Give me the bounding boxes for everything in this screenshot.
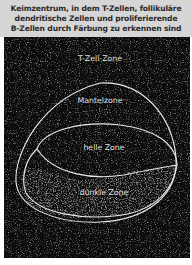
caption-line-1: Keimzentrum, in dem T-Zellen, follikulär… <box>11 4 182 14</box>
caption-line-3: B-Zellen durch Färbung zu erkennen sind <box>11 24 182 34</box>
t-cell-zone-label: T-Zell-Zone <box>78 54 122 63</box>
caption-line-2: dendritische Zellen und proliferierende <box>11 14 182 24</box>
mantle-zone-label: Mantelzone <box>77 96 122 105</box>
caption-text: Keimzentrum, in dem T-Zellen, follikulär… <box>11 4 182 34</box>
light-zone-label: helle Zone <box>83 143 124 152</box>
dark-zone-label: dunkle Zone <box>80 188 129 197</box>
micrograph: T-Zell-Zone Mantelzone helle Zone dunkle… <box>4 37 190 258</box>
figure-caption: Keimzentrum, in dem T-Zellen, follikulär… <box>0 0 192 37</box>
